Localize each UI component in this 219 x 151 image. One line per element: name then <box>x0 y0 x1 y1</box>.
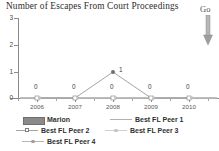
legend-item-peer-4[interactable]: Best FL Peer 4 <box>22 136 96 147</box>
legend-row-3: Best FL Peer 4 <box>0 136 219 147</box>
marker-2006 <box>35 96 39 100</box>
marker-2007 <box>73 96 77 100</box>
legend-item-peer-3[interactable]: Best FL Peer 3 <box>105 125 179 136</box>
legend-row-1: Marion Best FL Peer 1 <box>0 114 219 125</box>
edge-control-label: Go <box>200 4 210 14</box>
legend-label-marion: Marion <box>47 115 70 124</box>
data-label-2008: 0 <box>110 84 114 90</box>
chart-container: Number of Escapes From Court Proceedings… <box>0 0 219 151</box>
legend-item-peer-1[interactable]: Best FL Peer 1 <box>110 114 184 125</box>
legend-row-2: Best FL Peer 2 Best FL Peer 3 <box>0 125 219 136</box>
marker-dot-2010 <box>191 97 194 100</box>
legend-label-peer-2: Best FL Peer 2 <box>41 126 90 135</box>
chart-title: Number of Escapes From Court Proceedings <box>6 1 196 12</box>
marker-2010 <box>187 96 191 100</box>
data-label-peak-2008: 1 <box>119 67 123 73</box>
series-layer <box>0 14 219 110</box>
legend-item-marion[interactable]: Marion <box>22 114 70 125</box>
legend-swatch-peer-1 <box>110 115 132 124</box>
legend-item-peer-2[interactable]: Best FL Peer 2 <box>16 125 90 136</box>
marker-dot-2009 <box>153 97 156 100</box>
legend-swatch-peer-3 <box>105 126 127 135</box>
marker-peak-2008 <box>111 70 115 74</box>
legend-swatch-marion <box>22 115 44 124</box>
data-label-2006: 0 <box>34 84 38 90</box>
legend-label-peer-3: Best FL Peer 3 <box>130 126 179 135</box>
chart-legend: Marion Best FL Peer 1 Best FL Peer 2 <box>0 114 219 151</box>
legend-label-peer-1: Best FL Peer 1 <box>135 115 184 124</box>
legend-swatch-peer-4 <box>22 137 44 146</box>
data-label-2010: 0 <box>186 84 190 90</box>
marker-dot-2008 <box>115 97 118 100</box>
marker-2009 <box>149 96 153 100</box>
legend-swatch-peer-2 <box>16 126 38 135</box>
plot-area: 3 2 1 0 2006 2007 2008 2009 2010 <box>0 14 219 110</box>
marker-dot-2007 <box>77 97 80 100</box>
marker-2008 <box>111 96 115 100</box>
data-label-2007: 0 <box>72 84 76 90</box>
legend-label-peer-4: Best FL Peer 4 <box>47 137 96 146</box>
data-label-2009: 0 <box>148 84 152 90</box>
marker-dot-2006 <box>39 97 42 100</box>
